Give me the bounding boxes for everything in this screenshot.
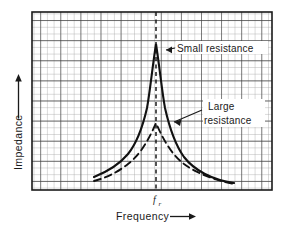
y-axis-title: Impedance [12, 114, 24, 170]
large-resistance-label-line2: resistance [204, 115, 252, 126]
large-resistance-label-line1: Large [208, 101, 235, 112]
impedance-vs-frequency-figure: Small resistance Large resistance f r Fr… [0, 0, 283, 232]
chart-canvas: Small resistance Large resistance f r Fr… [0, 0, 283, 232]
x-axis-title: Frequency [116, 210, 170, 222]
small-resistance-label: Small resistance [177, 43, 254, 54]
resonance-tick-subscript: r [159, 200, 162, 208]
annotation-small-resistance: Small resistance [166, 41, 268, 54]
